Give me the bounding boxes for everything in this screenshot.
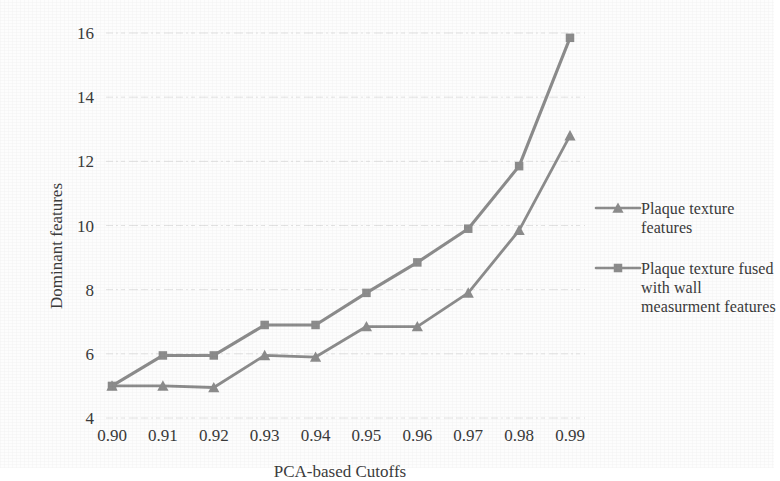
series-line-plaque-texture-fused: [112, 38, 570, 386]
x-tick-label-0.91: 0.91: [148, 426, 178, 445]
data-point-fused-0.90: [108, 382, 117, 391]
x-tick-label-0.95: 0.95: [352, 426, 382, 445]
y-axis-tick-labels: 46810121416: [77, 24, 95, 428]
x-tick-label-0.92: 0.92: [199, 426, 229, 445]
x-axis-tick-labels: 0.900.910.920.930.940.950.960.970.980.99: [97, 426, 585, 445]
data-point-fused-0.94: [311, 321, 320, 330]
data-point-fused-0.91: [159, 351, 168, 360]
legend-entry-label-plaque-texture-fused: Plaque texture fused with wall measurmen…: [641, 259, 780, 316]
data-point-fused-0.92: [210, 351, 219, 360]
data-point-fused-0.99: [566, 34, 575, 43]
data-point-fused-0.97: [464, 224, 473, 233]
data-point-texture-0.98: [514, 225, 525, 235]
y-tick-label-6: 6: [86, 345, 95, 364]
x-tick-label-0.97: 0.97: [453, 426, 483, 445]
y-tick-label-16: 16: [77, 24, 94, 43]
x-axis-title: PCA-based Cutoffs: [274, 462, 406, 481]
data-point-texture-0.99: [564, 130, 575, 140]
data-point-fused-0.96: [413, 258, 422, 267]
x-tick-label-0.93: 0.93: [250, 426, 280, 445]
x-tick-label-0.98: 0.98: [504, 426, 534, 445]
line-chart-figure: 46810121416 0.900.910.920.930.940.950.96…: [40, 16, 780, 481]
series-line-plaque-texture-features: [112, 136, 570, 388]
data-point-fused-0.93: [260, 321, 269, 330]
data-point-fused-0.95: [362, 289, 371, 298]
gridlines-group: [106, 33, 585, 418]
legend-marker-group: [596, 202, 640, 272]
x-tick-label-0.90: 0.90: [97, 426, 127, 445]
x-tick-label-0.96: 0.96: [402, 426, 432, 445]
y-tick-label-12: 12: [77, 152, 94, 171]
data-point-fused-0.98: [515, 162, 524, 171]
y-tick-label-8: 8: [86, 281, 95, 300]
legend-entry-label-plaque-texture-features: Plaque texture features: [641, 199, 780, 237]
y-axis-title: Dominant features: [47, 183, 66, 309]
y-tick-label-14: 14: [77, 88, 95, 107]
x-tick-label-0.99: 0.99: [555, 426, 585, 445]
chart-canvas: 46810121416 0.900.910.920.930.940.950.96…: [40, 16, 780, 481]
x-tick-label-0.94: 0.94: [301, 426, 331, 445]
y-tick-label-4: 4: [86, 409, 95, 428]
y-tick-label-10: 10: [77, 217, 94, 236]
data-series-group: [106, 34, 575, 393]
square-marker: [614, 264, 623, 273]
